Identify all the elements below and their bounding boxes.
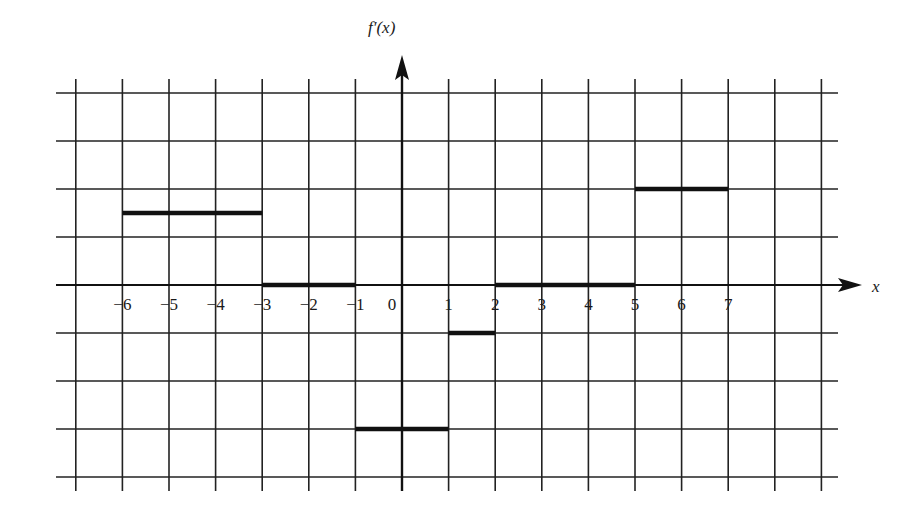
x-tick-label: 5 bbox=[631, 295, 640, 314]
x-tick-label: 6 bbox=[677, 295, 686, 314]
x-tick-label: −1 bbox=[346, 295, 364, 314]
x-tick-label: 2 bbox=[491, 295, 500, 314]
derivative-step-chart: −6−5−4−3−2−101234567 f′(x) x bbox=[0, 0, 919, 527]
x-tick-label: 1 bbox=[444, 295, 453, 314]
x-tick-label: 7 bbox=[724, 295, 733, 314]
x-axis-label: x bbox=[871, 277, 880, 296]
y-axis-label: f′(x) bbox=[368, 18, 396, 37]
x-tick-label: 0 bbox=[388, 295, 397, 314]
x-tick-label: 4 bbox=[584, 295, 593, 314]
x-tick-label: −6 bbox=[113, 295, 131, 314]
x-tick-label: −5 bbox=[160, 295, 178, 314]
x-tick-label: −3 bbox=[253, 295, 271, 314]
x-tick-labels: −6−5−4−3−2−101234567 bbox=[113, 295, 733, 314]
x-tick-label: 3 bbox=[538, 295, 547, 314]
x-tick-label: −2 bbox=[300, 295, 318, 314]
axes bbox=[56, 55, 862, 491]
x-tick-label: −4 bbox=[207, 295, 226, 314]
